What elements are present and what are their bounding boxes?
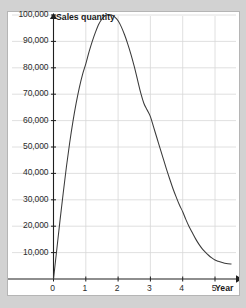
x-axis-title: Year bbox=[215, 283, 233, 293]
gridlines bbox=[12, 15, 236, 279]
y-axis-title: Sales quantity bbox=[56, 12, 115, 22]
chart-panel bbox=[7, 11, 240, 296]
chart-screenshot: 10,00020,00030,00040,00050,00060,00070,0… bbox=[0, 0, 246, 308]
chart-plot bbox=[8, 12, 240, 296]
x-axis-arrow-icon bbox=[236, 275, 240, 283]
